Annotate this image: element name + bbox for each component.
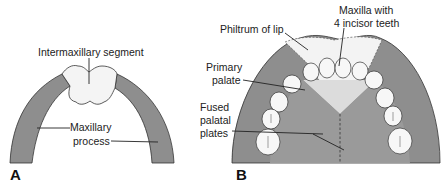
label-fused-line3: plates — [200, 127, 228, 139]
panel-label-b: B — [236, 166, 247, 183]
incisor-tooth — [319, 58, 335, 78]
label-philtrum-of-lip: Philtrum of lip — [220, 23, 284, 35]
incisor-tooth — [335, 58, 351, 78]
label-intermaxillary-segment: Intermaxillary segment — [38, 46, 144, 58]
label-fused-line1: Fused — [200, 101, 229, 113]
panel-b: Philtrum of lip Maxilla with 4 incisor t… — [200, 4, 440, 183]
incisor-tooth — [303, 63, 319, 81]
label-fused-line2: palatal — [200, 114, 231, 126]
label-maxillary-process-line2: process — [73, 135, 110, 147]
label-maxilla-line2: 4 incisor teeth — [334, 17, 400, 29]
label-maxilla-line1: Maxilla with — [339, 4, 393, 16]
maxillary-process-right — [115, 74, 174, 163]
label-primary-line2: palate — [212, 74, 241, 86]
maxillary-process-left — [10, 74, 70, 163]
intermaxillary-segment — [62, 65, 117, 104]
tooth-right-2 — [376, 88, 394, 108]
panel-a: Intermaxillary segment Maxillary process… — [10, 46, 174, 183]
tooth-left-1 — [283, 75, 301, 93]
label-primary-line1: Primary — [206, 61, 243, 73]
embryology-figure: Intermaxillary segment Maxillary process… — [0, 0, 442, 184]
label-maxillary-process-line1: Maxillary — [70, 121, 112, 133]
tooth-right-1 — [365, 71, 383, 89]
panel-label-a: A — [10, 166, 21, 183]
